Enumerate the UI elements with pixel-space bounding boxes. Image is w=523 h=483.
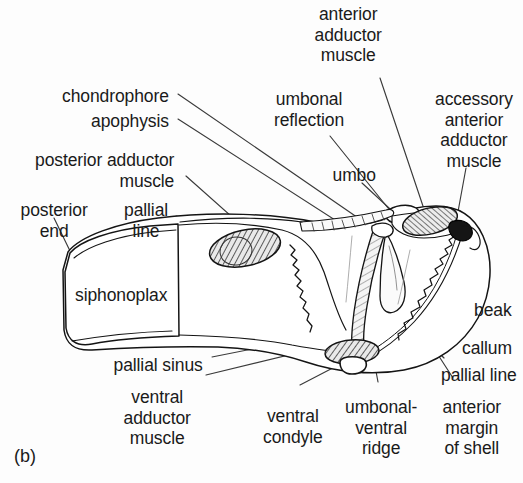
label-callum: callum	[462, 338, 512, 359]
label-umbonal-reflection: umbonal reflection	[274, 89, 344, 130]
label-pallial-line-left: pallial line	[124, 200, 168, 241]
label-anterior-adductor-muscle: anterior adductor muscle	[315, 4, 382, 66]
figure-container: anterior adductor musclechondrophoreumbo…	[0, 0, 523, 483]
figure-caption: (b)	[14, 446, 36, 467]
leader-anterior-adductor-muscle	[380, 78, 429, 224]
label-posterior-end: posterior end	[21, 200, 88, 241]
label-beak: beak	[474, 300, 512, 321]
label-posterior-adductor-muscle: posterior adductor muscle	[35, 150, 174, 191]
label-accessory-anterior-adductor-muscle: accessory anterior adductor muscle	[435, 89, 513, 171]
label-pallial-line-right: pallial line	[441, 365, 517, 386]
label-siphonoplax: siphonoplax	[75, 285, 167, 306]
label-apophysis: apophysis	[91, 111, 169, 132]
label-ventral-condyle: ventral condyle	[263, 406, 323, 447]
label-anterior-margin-of-shell: anterior margin of shell	[443, 397, 502, 459]
label-umbo: umbo	[333, 165, 376, 186]
chondrophore-shape	[372, 223, 393, 237]
ventral-condyle-shape	[340, 357, 366, 374]
label-umbonal-ventral-ridge: umbonal- ventral ridge	[345, 397, 417, 459]
label-chondrophore: chondrophore	[62, 86, 169, 107]
label-ventral-adductor-muscle: ventral adductor muscle	[124, 387, 191, 449]
label-pallial-sinus: pallial sinus	[114, 355, 203, 376]
